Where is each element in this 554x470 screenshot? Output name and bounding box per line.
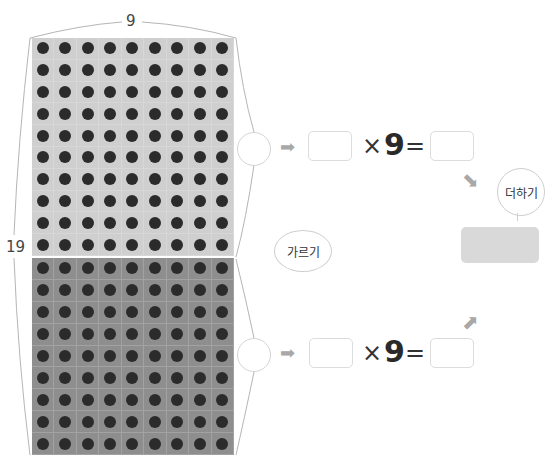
bottom-dot-array bbox=[32, 258, 234, 455]
dot bbox=[149, 239, 161, 251]
grid-cell bbox=[167, 103, 189, 125]
bottom-left-blank-input[interactable] bbox=[309, 338, 353, 368]
grid-cell bbox=[54, 103, 76, 125]
grid-cell bbox=[54, 433, 76, 455]
grid-cell bbox=[122, 411, 144, 433]
grid-cell bbox=[32, 38, 54, 60]
grid-cell bbox=[99, 147, 121, 169]
dot bbox=[59, 108, 71, 120]
dot bbox=[126, 328, 138, 340]
grid-cell bbox=[54, 125, 76, 147]
dot bbox=[216, 394, 228, 406]
dot bbox=[82, 350, 94, 362]
dot bbox=[104, 438, 116, 450]
dot bbox=[149, 372, 161, 384]
top-right-blank-input[interactable] bbox=[430, 131, 474, 161]
dot bbox=[149, 438, 161, 450]
dot bbox=[82, 328, 94, 340]
dot bbox=[126, 262, 138, 274]
dot bbox=[37, 108, 49, 120]
grid-cell bbox=[189, 191, 211, 213]
grid-cell bbox=[32, 346, 54, 368]
top-split-circle-input[interactable] bbox=[237, 132, 271, 166]
dot bbox=[216, 438, 228, 450]
grid-cell bbox=[189, 169, 211, 191]
dot bbox=[149, 306, 161, 318]
bottom-right-blank-input[interactable] bbox=[430, 338, 474, 368]
grid-cell bbox=[32, 280, 54, 302]
grid-cell bbox=[212, 234, 234, 256]
dot bbox=[59, 394, 71, 406]
dot bbox=[59, 64, 71, 76]
grid-cell bbox=[212, 38, 234, 60]
dot bbox=[104, 416, 116, 428]
grid-cell bbox=[167, 433, 189, 455]
dot bbox=[171, 151, 183, 163]
dot bbox=[171, 195, 183, 207]
dot bbox=[194, 306, 206, 318]
dot bbox=[37, 416, 49, 428]
dot bbox=[59, 284, 71, 296]
dot bbox=[82, 217, 94, 229]
dot bbox=[126, 350, 138, 362]
equals-sign: = bbox=[405, 132, 425, 160]
grid-cell bbox=[144, 125, 166, 147]
grid-cell bbox=[122, 433, 144, 455]
grid-cell bbox=[77, 60, 99, 82]
bubble-tail bbox=[517, 213, 518, 221]
dot bbox=[216, 239, 228, 251]
grid-cell bbox=[54, 212, 76, 234]
grid-cell bbox=[144, 324, 166, 346]
grid-cell bbox=[122, 389, 144, 411]
grid-cell bbox=[54, 82, 76, 104]
dot bbox=[194, 438, 206, 450]
grid-cell bbox=[99, 258, 121, 280]
dot bbox=[194, 350, 206, 362]
grid-cell bbox=[189, 302, 211, 324]
dot bbox=[37, 64, 49, 76]
grid-cell bbox=[167, 346, 189, 368]
dot bbox=[216, 306, 228, 318]
dot bbox=[59, 239, 71, 251]
bottom-split-circle-input[interactable] bbox=[237, 338, 271, 372]
grid-cell bbox=[54, 258, 76, 280]
grid-cell bbox=[122, 234, 144, 256]
grid-cell bbox=[144, 280, 166, 302]
dot bbox=[37, 394, 49, 406]
dot bbox=[104, 262, 116, 274]
grid-cell bbox=[77, 433, 99, 455]
grid-cell bbox=[189, 258, 211, 280]
grid-cell bbox=[167, 234, 189, 256]
grid-cell bbox=[189, 147, 211, 169]
dot bbox=[149, 350, 161, 362]
sum-result-box[interactable] bbox=[461, 227, 539, 263]
grid-cell bbox=[77, 191, 99, 213]
grid-cell bbox=[54, 346, 76, 368]
grid-cell bbox=[77, 125, 99, 147]
grid-cell bbox=[212, 169, 234, 191]
grid-cell bbox=[54, 60, 76, 82]
dot bbox=[126, 86, 138, 98]
dot bbox=[149, 64, 161, 76]
dot bbox=[59, 173, 71, 185]
dot bbox=[171, 350, 183, 362]
dot bbox=[126, 239, 138, 251]
grid-cell bbox=[144, 147, 166, 169]
top-left-blank-input[interactable] bbox=[308, 131, 352, 161]
dot bbox=[37, 350, 49, 362]
dot bbox=[126, 416, 138, 428]
dot bbox=[37, 86, 49, 98]
grid-cell bbox=[122, 212, 144, 234]
dot bbox=[149, 86, 161, 98]
grid-cell bbox=[212, 389, 234, 411]
grid-cell bbox=[122, 147, 144, 169]
grid-cell bbox=[77, 147, 99, 169]
dot bbox=[171, 86, 183, 98]
grid-cell bbox=[99, 280, 121, 302]
split-bubble-text: 가르기 bbox=[287, 243, 320, 260]
grid-cell bbox=[77, 103, 99, 125]
dot bbox=[194, 416, 206, 428]
dot bbox=[37, 262, 49, 274]
dot bbox=[59, 130, 71, 142]
grid-cell bbox=[32, 191, 54, 213]
